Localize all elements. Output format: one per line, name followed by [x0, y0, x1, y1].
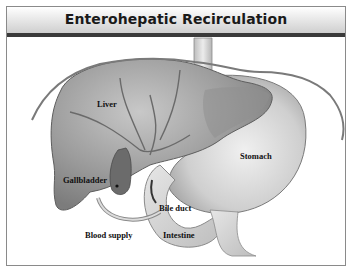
label-gallbladder: Gallbladder [63, 175, 107, 185]
label-bile-duct: Bile duct [159, 203, 191, 213]
label-liver: Liver [97, 99, 117, 109]
label-stomach: Stomach [240, 151, 272, 161]
label-intestine: Intestine [163, 230, 195, 240]
label-blood-supply: Blood supply [85, 230, 133, 240]
